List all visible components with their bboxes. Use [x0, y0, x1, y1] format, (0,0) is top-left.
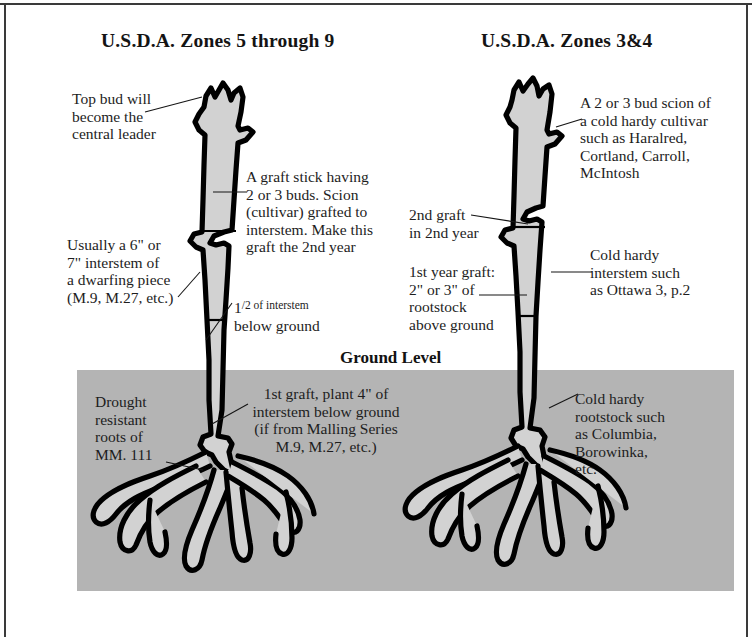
leader-scion-right: [556, 119, 582, 127]
annotation-half-interstem: 1/2 of interstembelow ground: [234, 297, 384, 334]
annotation-second-graft: 2nd graftin 2nd year: [409, 206, 509, 241]
half-interstem-denominator: /2 of interstem: [242, 299, 309, 311]
leader-half-interstem: [206, 303, 232, 340]
frame-left-rule: [4, 3, 6, 637]
diagram-canvas: U.S.D.A. Zones 5 through 9 U.S.D.A. Zone…: [0, 0, 752, 637]
annotation-scion-right: A 2 or 3 bud scion ofa cold hardy cultiv…: [580, 94, 732, 182]
annotation-first-graft: 1st graft, plant 4" ofinterstem below gr…: [243, 385, 409, 455]
half-interstem-line2: below ground: [234, 317, 320, 334]
annotation-rootstock-right: Cold hardyrootstock suchas Columbia,Boro…: [575, 390, 705, 478]
ground-level-label: Ground Level: [340, 348, 441, 368]
annotation-interstem-left: Usually a 6" or7" interstem ofa dwarfing…: [67, 236, 197, 306]
frame-right-rule: [746, 3, 748, 637]
annotation-graft-stick: A graft stick having2 or 3 buds. Scion(c…: [246, 168, 396, 256]
half-interstem-numerator: 1: [234, 299, 242, 316]
title-left: U.S.D.A. Zones 5 through 9: [101, 30, 334, 52]
annotation-top-bud: Top bud willbecome thecentral leader: [72, 90, 168, 143]
annotation-first-year-graft: 1st year graft:2" or 3" ofrootstockabove…: [409, 263, 519, 333]
frame-top-rule: [0, 3, 752, 5]
annotation-roots-left: Droughtresistantroots ofMM. 111: [95, 393, 181, 463]
annotation-interstem-right: Cold hardyinterstem suchas Ottawa 3, p.2: [590, 246, 722, 299]
title-right: U.S.D.A. Zones 3&4: [481, 30, 653, 52]
